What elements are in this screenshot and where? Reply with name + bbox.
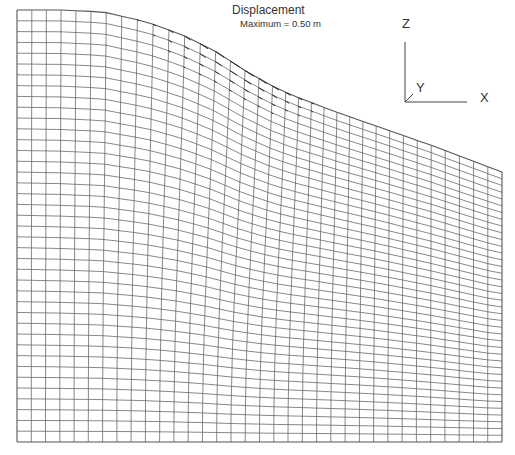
y-axis-label: Y: [416, 80, 425, 95]
max-displacement-label: Maximum = 0.50 m: [240, 18, 321, 29]
deformed-mesh: [0, 0, 515, 455]
z-axis-label: Z: [402, 16, 410, 31]
figure-title: Displacement: [232, 3, 305, 17]
x-axis-label: X: [480, 90, 489, 105]
